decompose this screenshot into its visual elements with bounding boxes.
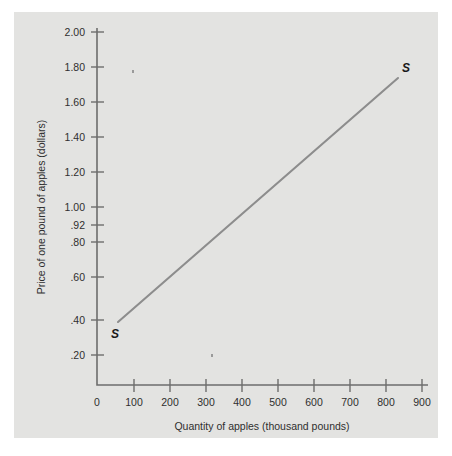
- axis-lines: [97, 28, 428, 385]
- supply-label-upper: S: [402, 61, 410, 75]
- x-tick-label: 200: [161, 396, 179, 408]
- x-axis-tick-labels: 0 100 200 300 400 500 600 700 800 900: [94, 396, 431, 408]
- x-tick-label: 900: [413, 396, 431, 408]
- y-tick-label: 2.00: [65, 26, 86, 38]
- scan-speck: [211, 354, 213, 357]
- x-tick-label: 0: [94, 396, 100, 408]
- x-tick-label: 300: [197, 396, 215, 408]
- x-tick-label: 500: [269, 396, 287, 408]
- x-tick-label: 700: [341, 396, 359, 408]
- supply-curve-line: [118, 78, 398, 322]
- chart-panel: 2.00 1.80 1.60 1.40 1.20 1.00 .92 .80 .6…: [14, 12, 438, 438]
- scan-speck: [132, 70, 134, 73]
- x-axis-title: Quantity of apples (thousand pounds): [174, 420, 349, 432]
- supply-label-lower: S: [111, 327, 119, 341]
- x-tick-label: 400: [233, 396, 251, 408]
- y-tick-label: 1.60: [65, 96, 86, 108]
- y-tick-label: .40: [70, 314, 85, 326]
- y-tick-label: .92: [70, 219, 85, 231]
- y-axis-tick-labels: 2.00 1.80 1.60 1.40 1.20 1.00 .92 .80 .6…: [65, 26, 86, 361]
- figure-container: 2.00 1.80 1.60 1.40 1.20 1.00 .92 .80 .6…: [0, 0, 452, 456]
- supply-curve-chart: 2.00 1.80 1.60 1.40 1.20 1.00 .92 .80 .6…: [14, 12, 438, 438]
- y-tick-label: 1.40: [65, 131, 86, 143]
- y-tick-label: .60: [70, 271, 85, 283]
- y-tick-label: 1.80: [65, 61, 86, 73]
- x-tick-label: 100: [125, 396, 143, 408]
- plot-area: 2.00 1.80 1.60 1.40 1.20 1.00 .92 .80 .6…: [14, 12, 438, 438]
- y-tick-label: 1.00: [65, 201, 86, 213]
- y-tick-label: 1.20: [65, 166, 86, 178]
- x-tick-label: 600: [305, 396, 323, 408]
- y-axis-title: Price of one pound of apples (dollars): [35, 120, 47, 295]
- y-tick-label: .80: [70, 236, 85, 248]
- y-tick-label: .20: [70, 349, 85, 361]
- x-tick-label: 800: [377, 396, 395, 408]
